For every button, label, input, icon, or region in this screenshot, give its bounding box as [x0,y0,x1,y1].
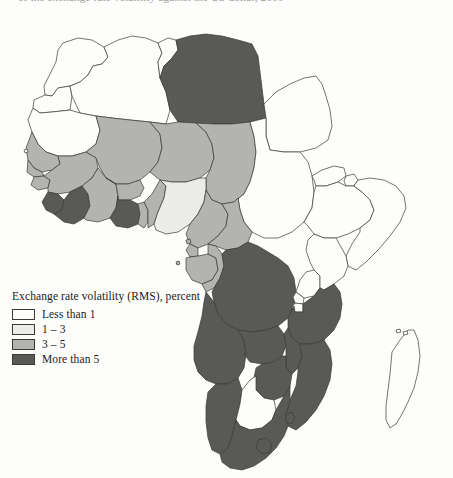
africa-map-svg [0,0,453,478]
africa-map [0,0,453,478]
legend-label-less-than-1: Less than 1 [42,308,95,320]
legend-item-more-than-5[interactable]: More than 5 [12,352,212,366]
legend-item-1-to-3[interactable]: 1 – 3 [12,322,212,336]
region-madagascar [386,330,420,428]
legend-label-more-than-5: More than 5 [42,353,99,365]
region-cape-verde-dot [24,149,28,153]
map-figure: of the exchange rate volatility against … [0,0,453,478]
region-bioko-dot [186,239,191,244]
map-legend: Exchange rate volatility (RMS), percent … [12,290,212,367]
region-sao-tome-dot [176,261,180,265]
legend-swatch-3-to-5 [12,339,35,350]
region-democratic-republic-congo [212,242,296,332]
legend-swatch-more-than-5 [12,354,35,365]
region-egypt [264,76,332,152]
legend-item-3-to-5[interactable]: 3 – 5 [12,337,212,351]
region-comoros-2 [403,331,408,335]
legend-swatch-less-than-1 [12,309,35,320]
legend-item-less-than-1[interactable]: Less than 1 [12,307,212,321]
region-eritrea [312,166,346,186]
legend-title: Exchange rate volatility (RMS), percent [12,290,212,303]
legend-label-1-to-3: 1 – 3 [42,323,66,335]
legend-label-3-to-5: 3 – 5 [42,338,66,350]
legend-swatch-1-to-3 [12,324,35,335]
region-comoros [396,329,401,333]
